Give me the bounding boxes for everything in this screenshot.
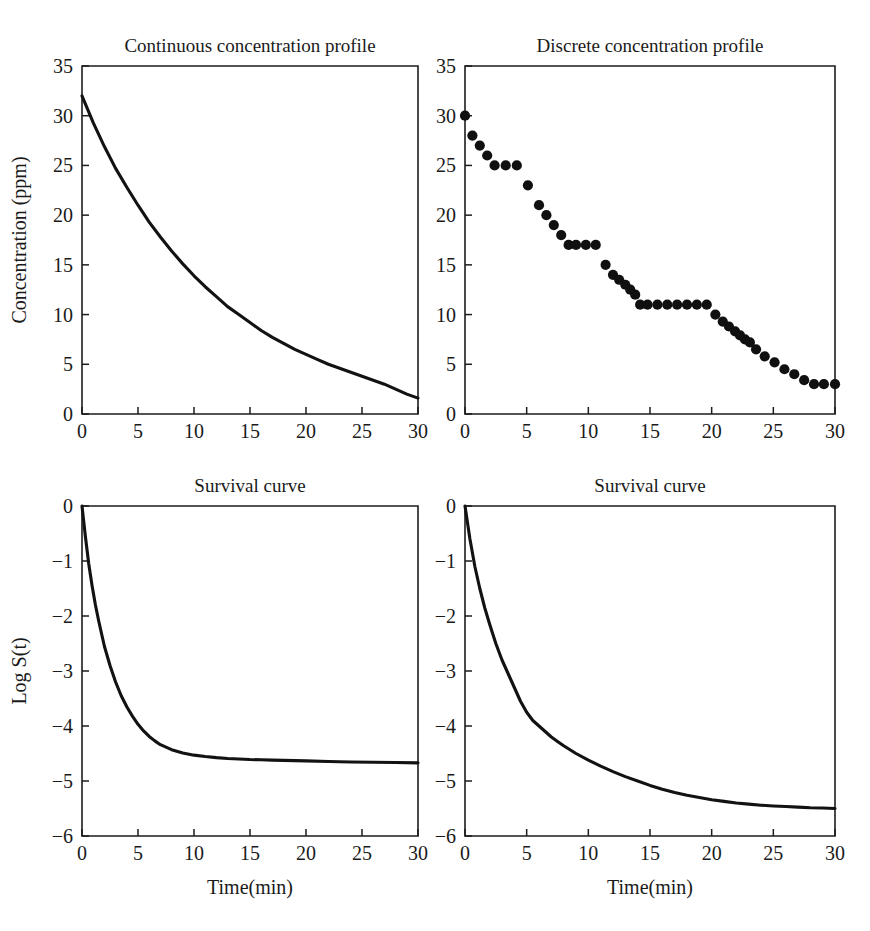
data-point <box>672 300 682 310</box>
y-tick-label: 15 <box>53 254 73 276</box>
x-tick-label: 10 <box>578 842 598 864</box>
y-tick-label: 15 <box>436 254 456 276</box>
data-curve <box>465 506 835 809</box>
data-point <box>541 210 551 220</box>
data-point <box>779 364 789 374</box>
x-tick-label: 5 <box>522 842 532 864</box>
y-tick-label: 10 <box>436 304 456 326</box>
data-point <box>460 111 470 121</box>
x-tick-label: 20 <box>702 420 722 442</box>
data-point <box>710 309 720 319</box>
plot-continuous-concentration-profile: Continuous concentration profile05101520… <box>0 14 435 464</box>
x-axis-label: Time(min) <box>607 876 693 899</box>
data-curve <box>82 96 418 398</box>
x-tick-label: 10 <box>184 420 204 442</box>
y-tick-label: 25 <box>53 154 73 176</box>
x-tick-label: 5 <box>522 420 532 442</box>
data-point <box>830 379 840 389</box>
data-point <box>642 300 652 310</box>
panel-continuous-concentration: Continuous concentration profile05101520… <box>0 14 435 464</box>
plot-survival-curve-continuous: Survival curve−6−5−4−3−2−10051015202530L… <box>0 446 435 916</box>
data-point <box>556 230 566 240</box>
x-tick-label: 30 <box>408 420 428 442</box>
x-tick-label: 25 <box>352 842 372 864</box>
y-tick-label: 20 <box>436 204 456 226</box>
y-axis-label: Concentration (ppm) <box>8 156 31 323</box>
data-point <box>467 131 477 141</box>
y-tick-label: −2 <box>435 605 456 627</box>
data-point <box>591 240 601 250</box>
y-tick-label: 0 <box>63 495 73 517</box>
x-tick-label: 15 <box>640 420 660 442</box>
x-tick-label: 20 <box>296 842 316 864</box>
y-tick-label: −6 <box>435 825 456 847</box>
x-tick-label: 25 <box>352 420 372 442</box>
x-tick-label: 25 <box>763 420 783 442</box>
y-tick-label: −1 <box>52 550 73 572</box>
y-tick-label: −6 <box>52 825 73 847</box>
y-tick-label: 30 <box>53 105 73 127</box>
plot-survival-curve-discrete: Survival curve−6−5−4−3−2−10051015202530T… <box>435 446 870 916</box>
y-axis-label: Log S(t) <box>8 637 31 704</box>
plot-title: Discrete concentration profile <box>537 35 764 56</box>
data-point <box>799 375 809 385</box>
x-tick-label: 25 <box>763 842 783 864</box>
data-point <box>702 300 712 310</box>
data-point <box>512 160 522 170</box>
y-tick-label: 5 <box>63 353 73 375</box>
x-tick-label: 0 <box>77 842 87 864</box>
x-tick-label: 20 <box>296 420 316 442</box>
data-point <box>819 379 829 389</box>
x-tick-label: 15 <box>640 842 660 864</box>
x-tick-label: 10 <box>184 842 204 864</box>
y-tick-label: 0 <box>63 403 73 425</box>
y-tick-label: 0 <box>446 495 456 517</box>
plot-title: Survival curve <box>594 475 705 496</box>
plot-frame <box>82 66 418 414</box>
data-point <box>523 180 533 190</box>
x-tick-label: 30 <box>825 420 845 442</box>
x-tick-label: 5 <box>133 842 143 864</box>
y-tick-label: 20 <box>53 204 73 226</box>
plot-title: Survival curve <box>194 475 305 496</box>
data-point <box>601 260 611 270</box>
plot-title: Continuous concentration profile <box>124 35 375 56</box>
panel-discrete-concentration: Discrete concentration profile0510152025… <box>435 14 870 464</box>
x-tick-label: 0 <box>460 420 470 442</box>
data-point <box>501 160 511 170</box>
y-tick-label: −4 <box>52 715 73 737</box>
data-point <box>571 240 581 250</box>
data-point <box>682 300 692 310</box>
x-tick-label: 0 <box>77 420 87 442</box>
data-point <box>769 357 779 367</box>
x-tick-label: 0 <box>460 842 470 864</box>
y-tick-label: −1 <box>435 550 456 572</box>
x-axis-label: Time(min) <box>207 876 293 899</box>
y-tick-label: 5 <box>446 353 456 375</box>
y-tick-label: 35 <box>53 55 73 77</box>
data-point <box>630 290 640 300</box>
y-tick-label: 35 <box>436 55 456 77</box>
y-tick-label: 0 <box>446 403 456 425</box>
y-tick-label: 30 <box>436 105 456 127</box>
data-point <box>809 379 819 389</box>
y-tick-label: −3 <box>435 660 456 682</box>
y-tick-label: −3 <box>52 660 73 682</box>
y-tick-label: 25 <box>436 154 456 176</box>
x-tick-label: 30 <box>408 842 428 864</box>
data-point <box>482 150 492 160</box>
x-tick-label: 15 <box>240 420 260 442</box>
x-tick-label: 20 <box>702 842 722 864</box>
panel-survival-curve-left: Survival curve−6−5−4−3−2−10051015202530L… <box>0 446 435 916</box>
data-point <box>652 300 662 310</box>
y-tick-label: −4 <box>435 715 456 737</box>
data-point <box>549 220 559 230</box>
data-point <box>751 344 761 354</box>
data-curve <box>82 506 418 763</box>
data-point <box>760 351 770 361</box>
panel-survival-curve-right: Survival curve−6−5−4−3−2−10051015202530T… <box>435 446 870 916</box>
data-point <box>789 369 799 379</box>
data-point <box>475 140 485 150</box>
y-tick-label: −5 <box>435 770 456 792</box>
data-point <box>692 300 702 310</box>
